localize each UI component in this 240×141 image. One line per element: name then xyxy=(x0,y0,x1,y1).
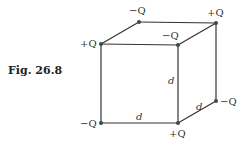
edge-top-right-depth xyxy=(178,23,216,45)
charge-label-front-top-left: +Q xyxy=(80,38,97,49)
charge-dot-back-bottom-right xyxy=(214,99,218,103)
charge-dot-front-bottom-left xyxy=(99,121,103,125)
charge-label-back-top-right: +Q xyxy=(207,7,224,18)
charge-dot-front-bottom-right xyxy=(176,121,180,125)
figure-caption: Fig. 26.8 xyxy=(8,64,62,77)
edge-front-top xyxy=(101,44,178,45)
charge-label-front-top-right: −Q xyxy=(162,30,179,41)
charge-dot-back-top-right xyxy=(214,21,218,25)
charge-label-back-bottom-right: −Q xyxy=(220,96,237,107)
edge-label-horizontal: d xyxy=(136,111,142,122)
charge-label-front-bottom-left: −Q xyxy=(80,118,97,129)
charge-label-back-top-left: −Q xyxy=(129,5,146,16)
charge-label-front-bottom-right: +Q xyxy=(169,128,186,139)
charge-dot-back-top-left xyxy=(137,20,141,24)
edge-label-depth: d xyxy=(196,101,202,112)
charge-dot-front-top-right xyxy=(176,43,180,47)
edge-back-top xyxy=(139,22,216,23)
cube-diagram: +Q −Q +Q −Q −Q +Q −Q d d d Fig. 26.8 xyxy=(0,0,240,141)
edge-label-vertical: d xyxy=(168,75,174,86)
charge-dot-front-top-left xyxy=(99,42,103,46)
edge-top-left-depth xyxy=(101,22,139,44)
